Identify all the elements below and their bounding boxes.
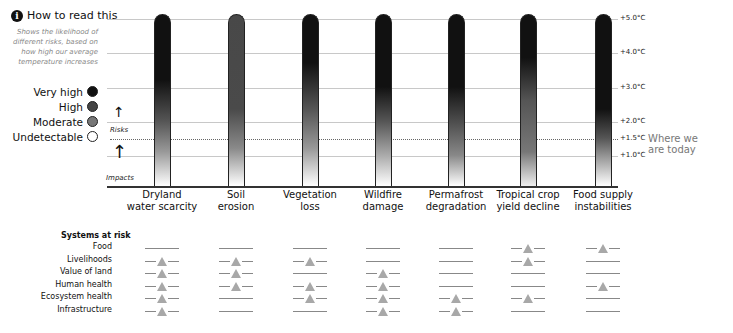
cell-line [219,248,253,249]
risk-cell-flagged [293,256,327,266]
warning-icon [157,269,167,278]
legend-dot-icon [87,131,98,142]
cell-line [439,298,450,299]
warning-icon [231,282,241,291]
system-label: Livelihoods [0,255,112,264]
impacts-label: Impacts [106,174,134,182]
category-line: instabilities [558,201,648,213]
risk-cell-empty [439,256,473,266]
warning-icon [231,269,241,278]
cell-line [219,311,253,312]
category-line: Food supply [558,189,648,201]
cell-line [389,273,400,274]
risk-cell-flagged [511,243,545,253]
risk-cell-flagged [219,256,253,266]
cell-line [534,261,545,262]
cell-line [609,248,620,249]
legend-item-high: High [0,99,98,114]
warning-icon [157,294,167,303]
cell-line [586,311,620,312]
tick-label: +3.0°C [620,83,645,91]
legend-dot-icon [87,116,98,127]
risk-cell-flagged [293,293,327,303]
baseline [107,186,618,188]
risk-cell-empty [586,256,620,266]
today-reference-line [110,139,618,140]
cell-line [293,261,304,262]
cell-line [168,286,179,287]
bar-wildfire-damage [375,14,392,186]
tick-label: +5.0°C [620,14,645,22]
cell-line [586,273,620,274]
cell-line [586,248,597,249]
cell-line [511,261,522,262]
legend: Very high High Moderate Undetectable [0,84,98,144]
cell-line [366,286,377,287]
cell-line [366,311,377,312]
cell-line [511,248,522,249]
warning-icon [523,257,533,266]
cell-line [462,298,473,299]
systems-title: Systems at risk [61,231,131,240]
gridline-5 [107,19,618,20]
cell-line [219,273,230,274]
risk-cell-flagged [366,268,400,278]
legend-label: Very high [33,86,83,98]
warning-icon [305,282,315,291]
risk-cell-flagged [366,293,400,303]
tick-label: +4.0°C [620,48,645,56]
cell-line [439,311,450,312]
risk-cell-flagged [439,293,473,303]
risk-cell-empty [293,306,327,316]
gridline-2 [107,122,618,123]
legend-item-moderate: Moderate [0,114,98,129]
risk-cell-empty [366,256,400,266]
bar-dryland-water-scarcity [154,14,171,186]
warning-icon [305,257,315,266]
cell-line [145,286,156,287]
legend-label: Undetectable [13,131,83,143]
warning-icon [598,244,608,253]
risk-cell-flagged [145,268,179,278]
legend-item-very-high: Very high [0,84,98,99]
risk-cell-flagged [219,281,253,291]
cell-line [293,298,304,299]
risk-cell-empty [293,243,327,253]
risk-cell-empty [511,268,545,278]
tick-label: +1.0°C [620,151,645,159]
cell-line [439,273,473,274]
system-label: Ecosystem health [0,292,112,301]
risk-cell-empty [439,243,473,253]
risks-label: Risks [110,126,128,134]
risk-cell-empty [586,268,620,278]
cell-line [219,298,253,299]
cell-line [145,273,156,274]
cell-line [586,261,620,262]
cell-line [462,311,473,312]
warning-icon [378,294,388,303]
legend-dot-icon [87,101,98,112]
cell-line [145,311,156,312]
cell-line [168,273,179,274]
system-label: Food [0,242,112,251]
warning-icon [378,307,388,316]
risk-cell-flagged [145,306,179,316]
cell-line [439,248,473,249]
info-icon: i [11,10,23,22]
cell-line [534,248,545,249]
cell-line [145,261,156,262]
risk-cell-flagged [586,243,620,253]
legend-dot-icon [87,86,98,97]
risk-cell-empty [586,293,620,303]
bar-permafrost-degradation [448,14,465,186]
cell-line [293,311,327,312]
warning-icon [157,282,167,291]
cell-line [439,261,473,262]
warning-icon [157,307,167,316]
cell-line [534,298,545,299]
risk-cell-flagged [511,256,545,266]
cell-line [366,298,377,299]
risk-cell-flagged [219,268,253,278]
arrow-up-icon: ↑ [112,141,127,162]
warning-icon [231,257,241,266]
